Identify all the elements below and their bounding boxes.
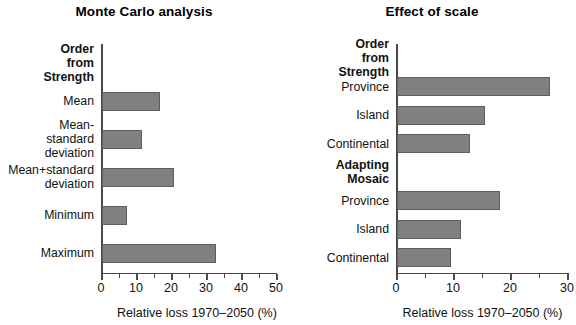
x-axis-ticks-right: 0 10 20 30 Relative loss 1970–2050 (%)	[396, 274, 569, 282]
bar-label-am-continental: Continental	[327, 251, 389, 265]
tick-major	[396, 274, 398, 280]
panel-monte-carlo: Monte Carlo analysis Order from Strength…	[0, 0, 288, 325]
group-header-row-ofs: Order from Strength	[396, 44, 569, 73]
bar-rows-right: Order from Strength Province Island Cont…	[396, 44, 569, 272]
tick-minor	[224, 274, 226, 278]
x-tick-label: 0	[393, 281, 400, 295]
bar-row-am-island: Island	[396, 215, 569, 244]
bar-minimum	[102, 206, 127, 225]
bar-label-am-province: Province	[341, 194, 389, 208]
tick-major	[136, 274, 138, 280]
group-header-row-left: Order from Strength	[101, 44, 277, 82]
x-tick-label: 0	[98, 281, 105, 295]
plot-area-left: Order from Strength Mean Mean-standard d…	[101, 44, 277, 274]
tick-major	[567, 274, 569, 280]
group-label-order-from-strength: Order from Strength	[43, 42, 94, 84]
bar-maximum	[102, 244, 216, 263]
bar-ofs-province	[397, 77, 550, 96]
tick-minor	[189, 274, 191, 278]
tick-major	[241, 274, 243, 280]
bar-rows-left: Order from Strength Mean Mean-standard d…	[101, 44, 277, 272]
x-tick-label: 40	[234, 281, 248, 295]
bar-row-mean-minus-sd: Mean-standard deviation	[101, 120, 277, 158]
bar-label-mean-minus-sd: Mean-standard deviation	[45, 118, 94, 160]
tick-minor	[119, 274, 121, 278]
bar-label-am-island: Island	[356, 222, 389, 236]
panel-title-right: Effect of scale	[288, 4, 576, 19]
panel-title-left: Monte Carlo analysis	[0, 4, 288, 19]
bar-label-maximum: Maximum	[41, 246, 94, 260]
tick-major	[101, 274, 103, 280]
bar-ofs-island	[397, 106, 485, 125]
tick-minor	[154, 274, 156, 278]
bar-am-province	[397, 191, 500, 210]
tick-major	[453, 274, 455, 280]
bar-label-mean-plus-sd: Mean+standard deviation	[8, 163, 94, 191]
x-axis-title-left: Relative loss 1970–2050 (%)	[117, 306, 277, 320]
bar-row-minimum: Minimum	[101, 196, 277, 234]
x-axis-ticks-left: 0 10 20 30 40 50 Relative loss 1970–2050…	[101, 274, 277, 282]
bar-row-am-province: Province	[396, 187, 569, 216]
bar-label-mean: Mean	[63, 94, 94, 108]
bar-row-ofs-continental: Continental	[396, 130, 569, 159]
bar-mean	[102, 92, 160, 111]
x-tick-label: 20	[503, 281, 517, 295]
x-tick-label: 30	[199, 281, 213, 295]
x-tick-label: 30	[560, 281, 574, 295]
bar-row-mean: Mean	[101, 82, 277, 120]
tick-major	[206, 274, 208, 280]
bar-row-maximum: Maximum	[101, 234, 277, 272]
bar-row-ofs-island: Island	[396, 101, 569, 130]
tick-minor	[482, 274, 484, 278]
bar-ofs-continental	[397, 134, 470, 153]
bar-am-island	[397, 220, 461, 239]
group-header-row-am: Adapting Mosaic	[396, 158, 569, 187]
bar-row-mean-plus-sd: Mean+standard deviation	[101, 158, 277, 196]
bar-mean-plus-sd	[102, 168, 174, 187]
bar-row-am-continental: Continental	[396, 244, 569, 273]
bar-mean-minus-sd	[102, 130, 142, 149]
x-tick-label: 50	[269, 281, 283, 295]
bar-label-ofs-continental: Continental	[327, 137, 389, 151]
bar-am-continental	[397, 248, 451, 267]
plot-area-right: Order from Strength Province Island Cont…	[396, 44, 569, 274]
tick-minor	[259, 274, 261, 278]
bar-row-ofs-province: Province	[396, 73, 569, 102]
tick-minor	[425, 274, 427, 278]
x-axis-title-right: Relative loss 1970–2050 (%)	[403, 306, 563, 320]
x-tick-label: 10	[129, 281, 143, 295]
x-tick-label: 10	[446, 281, 460, 295]
group-label-adapting-mosaic: Adapting Mosaic	[336, 158, 389, 186]
tick-major	[276, 274, 278, 280]
group-label-order-from-strength: Order from Strength	[338, 37, 389, 79]
bar-label-ofs-province: Province	[341, 80, 389, 94]
bar-label-ofs-island: Island	[356, 108, 389, 122]
bar-label-minimum: Minimum	[44, 208, 94, 222]
tick-minor	[539, 274, 541, 278]
tick-major	[510, 274, 512, 280]
x-tick-label: 20	[164, 281, 178, 295]
tick-major	[171, 274, 173, 280]
